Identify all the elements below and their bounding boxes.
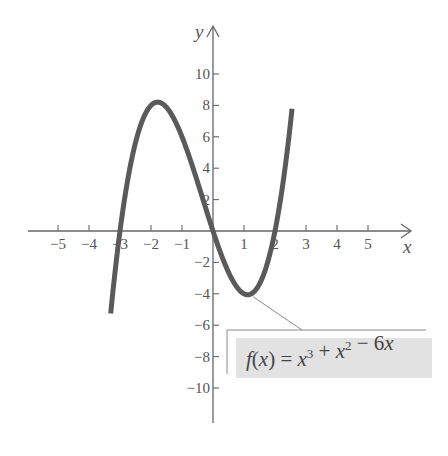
formula-part: ( <box>252 347 259 371</box>
x-tick-label: −4 <box>81 236 97 252</box>
curve-layer <box>111 102 292 313</box>
callout-line <box>253 297 302 330</box>
y-tick-label: 6 <box>203 129 211 145</box>
formula-annotation: f(x) = x3 + x2 − 6x <box>227 297 432 378</box>
formula-part: + <box>313 339 335 363</box>
y-tick-label: −8 <box>194 349 210 365</box>
y-tick-label: −6 <box>194 317 210 333</box>
formula-part: x <box>383 331 394 355</box>
x-tick-label: −1 <box>174 236 190 252</box>
x-tick-label: 1 <box>240 236 248 252</box>
formula-part: ) = <box>268 347 297 371</box>
function-graph: xy −5−4−3−2−112345108642−2−4−6−8−10 f(x)… <box>0 0 448 456</box>
x-tick-label: 3 <box>302 236 310 252</box>
y-tick-label: −10 <box>187 380 210 396</box>
function-curve <box>111 102 292 313</box>
y-tick-label: 8 <box>203 97 211 113</box>
y-tick-label: −4 <box>194 286 210 302</box>
y-tick-label: 10 <box>195 66 210 82</box>
x-tick-label: −2 <box>143 236 159 252</box>
x-axis-label: x <box>402 236 412 257</box>
x-tick-label: 4 <box>333 236 341 252</box>
y-tick-label: 4 <box>203 160 211 176</box>
x-tick-label: 5 <box>364 236 372 252</box>
y-tick-label: −2 <box>194 254 210 270</box>
x-tick-label: −5 <box>50 236 66 252</box>
y-axis-label: y <box>193 21 204 42</box>
formula-part: − 6 <box>352 331 385 355</box>
